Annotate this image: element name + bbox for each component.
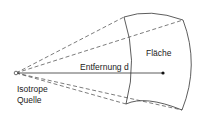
source-label-line2: Quelle bbox=[17, 95, 42, 105]
area-label: Fläche bbox=[146, 48, 172, 58]
isotropic-source-diagram: Entfernung d Fläche Isotrope Quelle bbox=[0, 0, 204, 118]
source-point-icon bbox=[14, 71, 18, 75]
target-dot-icon bbox=[161, 71, 164, 74]
distance-label: Entfernung d bbox=[80, 62, 129, 72]
area-patch bbox=[124, 13, 191, 110]
source-label-line1: Isotrope bbox=[17, 84, 48, 94]
